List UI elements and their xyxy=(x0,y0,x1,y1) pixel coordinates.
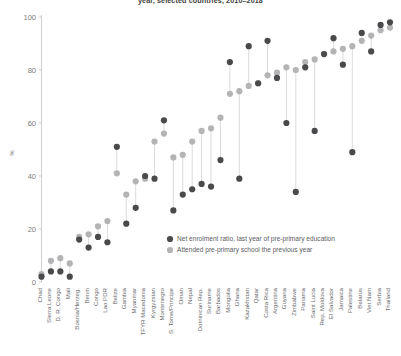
svg-text:Argentina: Argentina xyxy=(271,287,278,314)
svg-text:Montenegro: Montenegro xyxy=(158,287,165,320)
svg-text:Palestine: Palestine xyxy=(346,287,353,313)
svg-text:Guyana: Guyana xyxy=(280,287,287,309)
svg-text:Net enrolment ratio, last year: Net enrolment ratio, last year of pre-pr… xyxy=(177,235,335,243)
svg-text:D. R. Congo: D. R. Congo xyxy=(54,287,61,321)
svg-text:Bosnia/Herzeg.: Bosnia/Herzeg. xyxy=(73,288,80,330)
svg-text:Myanmar: Myanmar xyxy=(130,288,137,313)
svg-text:Dominican Rep.: Dominican Rep. xyxy=(196,288,203,332)
svg-text:Suriname: Suriname xyxy=(205,287,212,314)
chart-legend: Net enrolment ratio, last year of pre-pr… xyxy=(167,235,335,254)
svg-text:Jamaica: Jamaica xyxy=(337,287,344,310)
svg-text:Serbia: Serbia xyxy=(375,287,382,305)
svg-text:Thailand: Thailand xyxy=(384,288,391,311)
svg-text:Saint Lucia: Saint Lucia xyxy=(309,287,316,318)
svg-text:Rep. Moldova: Rep. Moldova xyxy=(318,287,325,325)
svg-text:Nepal: Nepal xyxy=(186,288,193,304)
x-axis-category-labels: ChadSierra LeoneD. R. CongoMaliBosnia/He… xyxy=(36,287,392,335)
svg-text:80: 80 xyxy=(28,66,36,75)
svg-text:TFYR Macedonia: TFYR Macedonia xyxy=(139,287,146,335)
svg-text:Ghana: Ghana xyxy=(233,287,240,306)
svg-text:Congo: Congo xyxy=(92,287,99,306)
svg-text:0: 0 xyxy=(32,278,36,287)
svg-text:100: 100 xyxy=(23,13,36,22)
svg-text:Kazakhstan: Kazakhstan xyxy=(243,288,250,320)
svg-text:Viet Nam: Viet Nam xyxy=(365,288,372,313)
svg-text:Oman: Oman xyxy=(177,288,184,305)
svg-text:Attended pre-primary school th: Attended pre-primary school the previous… xyxy=(177,246,313,254)
svg-text:S. Tome/Principe: S. Tome/Principe xyxy=(167,287,174,334)
svg-text:Gambia: Gambia xyxy=(120,287,127,309)
svg-text:40: 40 xyxy=(28,172,36,181)
svg-text:Belarus: Belarus xyxy=(356,288,363,309)
svg-text:Costa Rica: Costa Rica xyxy=(262,287,269,317)
svg-text:%: % xyxy=(8,150,15,156)
svg-text:Panama: Panama xyxy=(299,287,306,310)
svg-text:El Salvador: El Salvador xyxy=(327,288,334,319)
svg-text:Lao PDR: Lao PDR xyxy=(101,287,108,312)
svg-text:Chad: Chad xyxy=(36,288,43,303)
svg-text:Belize: Belize xyxy=(111,287,118,304)
svg-text:Mongolia: Mongolia xyxy=(224,287,231,312)
svg-text:Zimbabwe: Zimbabwe xyxy=(290,287,297,316)
chart-container: year, selected countries, 2010–2018 0204… xyxy=(0,0,401,356)
scatter-plot-svg: 020406080100% ChadSierra LeoneD. R. Cong… xyxy=(0,0,401,356)
svg-text:Qatar: Qatar xyxy=(252,288,259,303)
svg-text:Mali: Mali xyxy=(64,288,71,299)
svg-text:Benin: Benin xyxy=(83,288,90,304)
svg-text:20: 20 xyxy=(28,225,36,234)
y-axis: 020406080100% xyxy=(8,13,42,287)
svg-text:Sierra Leone: Sierra Leone xyxy=(45,287,52,323)
svg-text:Kyrgyzstan: Kyrgyzstan xyxy=(149,288,156,318)
svg-text:60: 60 xyxy=(28,119,36,128)
svg-text:Barbados: Barbados xyxy=(214,288,221,314)
